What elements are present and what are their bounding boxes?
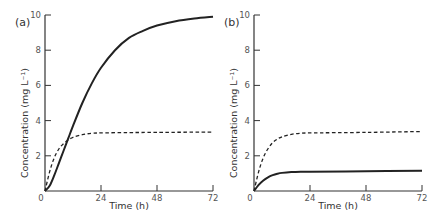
figure: 2468100244872Time (h)Concentration (mg L… [0,0,438,221]
panel-b-series-dashed [254,132,422,191]
panel-a-y-tick-label: 2 [36,151,41,161]
panel-a-x-tick-label: 72 [208,193,219,203]
panel-a-label: (a) [15,16,30,29]
panel-a-y-tick-label: 6 [36,80,41,90]
panel-a-series-solid [45,17,213,191]
panel-a-x-axis-label: Time (h) [108,200,149,211]
panel-a-x-tick-label: 24 [96,193,107,203]
panel-b-y-tick-label: 2 [245,151,250,161]
panel-b-series-solid [254,171,422,191]
panel-a-x-tick-label: 48 [152,193,163,203]
panel-b-x-tick-label: 0 [247,193,252,203]
panel-a-y-tick-label: 8 [36,45,41,55]
panel-a-series-dashed [45,132,213,191]
panel-b-y-tick-label: 8 [245,45,250,55]
panel-b-y-tick-label: 10 [239,10,250,20]
panel-b-x-tick-label: 24 [305,193,316,203]
panel-a-y-tick-label: 10 [30,10,41,20]
panel-a-x-tick-label: 0 [38,193,43,203]
panel-b-y-axis-label: Concentration (mg L⁻¹) [228,68,239,178]
panel-b-x-tick-label: 72 [417,193,428,203]
panel-a-y-tick-label: 4 [36,116,41,126]
panel-b-label: (b) [224,16,240,29]
panel-b-x-tick-label: 48 [361,193,372,203]
panel-b-x-axis-label: Time (h) [317,200,358,211]
panel-a-y-axis-label: Concentration (mg L⁻¹) [19,68,30,178]
panel-b-y-tick-label: 4 [245,116,250,126]
panel-b-y-tick-label: 6 [245,80,250,90]
